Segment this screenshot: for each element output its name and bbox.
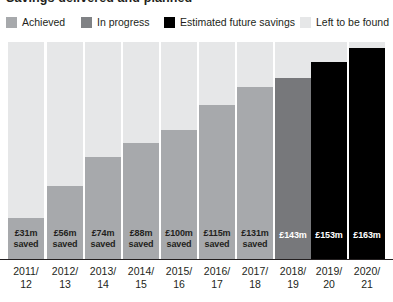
tick-line-2: 12 <box>8 278 44 291</box>
tick-line-1: 2015/ <box>166 265 192 277</box>
tick-line-2: 21 <box>349 278 385 291</box>
tick-line-1: 2013/ <box>90 265 116 277</box>
bar-2017-18[interactable]: £131msaved <box>237 42 273 259</box>
x-axis-tick-2019-20: 2019/20 <box>311 265 347 291</box>
bar-value-amount: £163m <box>353 230 381 240</box>
bar-2014-15[interactable]: £88msaved <box>123 42 159 259</box>
tick-line-1: 2012/ <box>52 265 78 277</box>
bar-2015-16[interactable]: £100msaved <box>161 42 197 259</box>
bar-value-amount: £56m <box>54 228 77 238</box>
tick-line-1: 2020/ <box>354 265 380 277</box>
bar-value-amount: £100m <box>165 228 193 238</box>
bar-value-label: £74msaved <box>85 228 121 250</box>
x-axis-tick-2018-19: 2018/19 <box>275 265 311 291</box>
tick-line-1: 2017/ <box>242 265 268 277</box>
bar-2012-13[interactable]: £56msaved <box>47 42 83 259</box>
bar-value-label: £115msaved <box>199 228 235 250</box>
bar-2011-12[interactable]: £31msaved <box>8 42 44 259</box>
bar-2020-21[interactable]: £163m <box>349 42 385 259</box>
bar-value-amount: £115m <box>203 228 230 238</box>
x-axis-tick-2011-12: 2011/12 <box>8 265 44 291</box>
tick-line-2: 18 <box>237 278 273 291</box>
x-axis-tick-2014-15: 2014/15 <box>123 265 159 291</box>
x-axis-tick-2016-17: 2016/17 <box>199 265 235 291</box>
bar-value-label: £56msaved <box>47 228 83 250</box>
bar-value-suffix: saved <box>161 239 197 250</box>
bar-value-label: £131msaved <box>237 228 273 250</box>
bar-2018-19[interactable]: £143m <box>275 42 311 259</box>
bar-fill <box>349 48 385 259</box>
bar-value-suffix: saved <box>85 239 121 250</box>
x-axis-tick-2020-21: 2020/21 <box>349 265 385 291</box>
bar-value-amount: £31m <box>15 228 38 238</box>
bar-value-suffix: saved <box>123 239 159 250</box>
chart-plot-area: £31msaved2011/12£56msaved2012/13£74msave… <box>0 0 393 302</box>
x-axis-line <box>0 259 393 260</box>
x-axis-tick-2013-14: 2013/14 <box>85 265 121 291</box>
tick-line-2: 16 <box>161 278 197 291</box>
bar-value-suffix: saved <box>199 239 235 250</box>
bar-value-label: £163m <box>349 230 385 241</box>
tick-line-1: 2019/ <box>316 265 342 277</box>
bar-2016-17[interactable]: £115msaved <box>199 42 235 259</box>
bar-value-label: £31msaved <box>8 228 44 250</box>
bar-value-label: £88msaved <box>123 228 159 250</box>
tick-line-1: 2014/ <box>128 265 154 277</box>
tick-line-2: 15 <box>123 278 159 291</box>
tick-line-1: 2016/ <box>204 265 230 277</box>
tick-line-1: 2011/ <box>13 265 39 277</box>
x-axis-tick-2017-18: 2017/18 <box>237 265 273 291</box>
tick-line-1: 2018/ <box>280 265 306 277</box>
tick-line-2: 13 <box>47 278 83 291</box>
bar-value-suffix: saved <box>47 239 83 250</box>
bar-value-suffix: saved <box>8 239 44 250</box>
bar-2013-14[interactable]: £74msaved <box>85 42 121 259</box>
bar-value-label: £143m <box>275 230 311 241</box>
bar-2019-20[interactable]: £153m <box>311 42 347 259</box>
bar-value-amount: £131m <box>241 228 269 238</box>
tick-line-2: 19 <box>275 278 311 291</box>
tick-line-2: 20 <box>311 278 347 291</box>
bar-value-amount: £153m <box>315 230 343 240</box>
bar-value-label: £153m <box>311 230 347 241</box>
bar-value-label: £100msaved <box>161 228 197 250</box>
bar-value-suffix: saved <box>237 239 273 250</box>
bar-value-amount: £74m <box>92 228 115 238</box>
tick-line-2: 14 <box>85 278 121 291</box>
bar-value-amount: £143m <box>279 230 307 240</box>
bar-value-amount: £88m <box>130 228 153 238</box>
x-axis-tick-2012-13: 2012/13 <box>47 265 83 291</box>
x-axis-tick-2015-16: 2015/16 <box>161 265 197 291</box>
tick-line-2: 17 <box>199 278 235 291</box>
